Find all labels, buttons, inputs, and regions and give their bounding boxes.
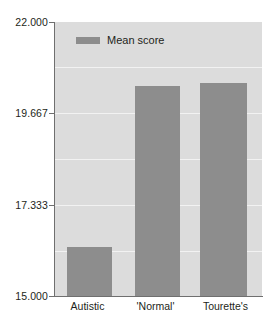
bar-chart: 22.000 19.667 17.333 15.000 Mean score A… — [0, 0, 273, 324]
y-tick-mark — [49, 22, 55, 23]
legend-label-mean-score: Mean score — [107, 34, 164, 46]
x-tick-label-normal: 'Normal' — [124, 300, 187, 312]
bar-normal — [135, 86, 180, 296]
legend: Mean score — [76, 34, 164, 46]
x-tick-label-autistic: Autistic — [54, 300, 121, 312]
y-tick-mark — [49, 113, 55, 114]
plot-area — [55, 22, 262, 296]
x-axis-line — [54, 296, 263, 297]
y-axis-line — [54, 22, 55, 297]
y-tick-label-19667: 19.667 — [0, 107, 48, 119]
bar-autistic — [67, 247, 112, 296]
x-tick-label-tourettes: Tourette's — [189, 300, 262, 312]
bar-tourettes — [200, 83, 247, 296]
legend-swatch-mean-score — [76, 37, 100, 44]
y-axis-labels: 22.000 19.667 17.333 15.000 — [0, 0, 48, 324]
y-tick-label-17333: 17.333 — [0, 199, 48, 211]
y-tick-label-22: 22.000 — [0, 16, 48, 28]
y-tick-mark — [49, 205, 55, 206]
y-tick-label-15: 15.000 — [0, 290, 48, 302]
gridline — [55, 67, 262, 68]
y-tick-mark — [49, 296, 55, 297]
